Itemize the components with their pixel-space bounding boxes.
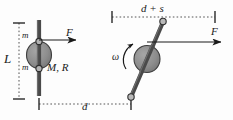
mass-top-marker (36, 38, 42, 44)
label-force-right: F (211, 26, 218, 37)
physics-diagram: L m m M, R F F d d + s ω (0, 0, 233, 120)
label-mass-top: m (22, 31, 29, 40)
label-mass-bottom: m (22, 63, 29, 72)
end-cap-bottom-marker (128, 94, 134, 100)
label-angular-velocity: ω (112, 52, 119, 62)
label-length-L: L (4, 52, 11, 65)
label-disk-mass-radius: M, R (47, 62, 68, 73)
label-distance-d-plus-s: d + s (141, 3, 164, 14)
end-cap-top-marker (160, 18, 166, 24)
mass-bottom-marker (36, 65, 42, 71)
label-force-left: F (66, 27, 73, 38)
omega-arc-arrow (123, 44, 133, 69)
label-distance-d: d (82, 101, 88, 112)
